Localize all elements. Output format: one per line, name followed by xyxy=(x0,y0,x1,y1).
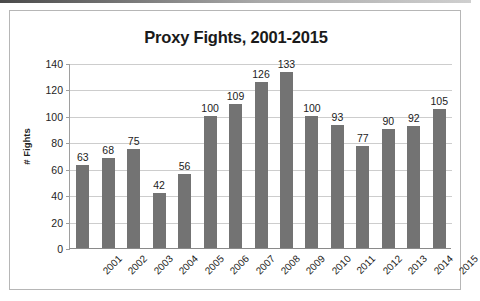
x-axis-tick-label: 2011 xyxy=(355,253,378,276)
bar[interactable] xyxy=(153,193,166,249)
y-axis-tick-label: 100 xyxy=(45,111,63,123)
chart-frame: Proxy Fights, 2001-2015 # Fights 0204060… xyxy=(9,10,461,290)
y-axis-tick-label: 40 xyxy=(51,190,63,202)
x-axis-tick-label: 2013 xyxy=(406,253,430,277)
x-axis-tick-label: 2004 xyxy=(177,253,201,277)
x-axis-tick-label: 2014 xyxy=(431,253,455,277)
bar[interactable] xyxy=(229,104,242,248)
x-axis-tick-label: 2015 xyxy=(457,253,480,277)
bar-value-label: 100 xyxy=(201,102,219,114)
bar-value-label: 133 xyxy=(278,58,296,70)
y-axis-tick-mark xyxy=(66,90,70,91)
plot-area: 020406080100120140 636875425610010912613… xyxy=(69,64,451,249)
bar[interactable] xyxy=(433,109,446,248)
bar-value-label: 56 xyxy=(179,160,191,172)
bar[interactable] xyxy=(356,146,369,248)
y-axis-tick-label: 20 xyxy=(51,217,63,229)
y-axis-tick-mark xyxy=(66,117,70,118)
bar[interactable] xyxy=(204,116,217,248)
y-axis-tick-mark xyxy=(66,249,70,250)
bar[interactable] xyxy=(382,129,395,248)
y-axis-tick-label: 140 xyxy=(45,58,63,70)
gridline xyxy=(70,64,452,65)
y-axis-tick-label: 80 xyxy=(51,137,63,149)
x-axis-tick-label: 2006 xyxy=(228,253,252,277)
x-axis-tick-label: 2008 xyxy=(279,253,303,277)
bar-value-label: 63 xyxy=(77,151,89,163)
x-axis-tick-label: 2005 xyxy=(202,253,226,277)
bar-value-label: 92 xyxy=(408,112,420,124)
x-axis-tick-label: 2009 xyxy=(304,253,328,277)
bar[interactable] xyxy=(280,72,293,248)
bar-value-label: 109 xyxy=(227,90,245,102)
y-axis-tick-mark xyxy=(66,170,70,171)
y-axis-tick-mark xyxy=(66,143,70,144)
y-axis-tick-mark xyxy=(66,223,70,224)
x-axis-tick-label: 2003 xyxy=(151,253,175,277)
y-axis-tick-mark xyxy=(66,196,70,197)
x-axis-tick-label: 2010 xyxy=(329,253,353,277)
bar-value-label: 77 xyxy=(357,132,369,144)
chart-title: Proxy Fights, 2001-2015 xyxy=(10,28,462,47)
bar[interactable] xyxy=(178,174,191,248)
bar[interactable] xyxy=(407,126,420,248)
bar[interactable] xyxy=(102,158,115,248)
bar-value-label: 126 xyxy=(252,68,270,80)
y-axis-title: # Fights xyxy=(21,117,32,177)
bar-value-label: 93 xyxy=(332,111,344,123)
bar-value-label: 90 xyxy=(382,115,394,127)
bar[interactable] xyxy=(255,82,268,249)
x-axis-tick-label: 2001 xyxy=(100,253,124,277)
bar-value-label: 105 xyxy=(431,95,449,107)
bar[interactable] xyxy=(76,165,89,248)
bar-value-label: 75 xyxy=(128,135,140,147)
y-axis-tick-label: 60 xyxy=(51,164,63,176)
bar-value-label: 68 xyxy=(102,144,114,156)
x-axis-tick-label: 2002 xyxy=(126,253,150,277)
bar[interactable] xyxy=(305,116,318,248)
x-axis-tick-label: 2007 xyxy=(253,253,277,277)
x-axis-tick-label: 2012 xyxy=(380,253,404,277)
bar[interactable] xyxy=(127,149,140,248)
y-axis-tick-label: 0 xyxy=(57,243,63,255)
y-axis-tick-label: 120 xyxy=(45,84,63,96)
scan-edge-band xyxy=(0,0,471,3)
bar-value-label: 42 xyxy=(153,179,165,191)
bar-value-label: 100 xyxy=(303,102,321,114)
bar[interactable] xyxy=(331,125,344,248)
y-axis-tick-mark xyxy=(66,64,70,65)
